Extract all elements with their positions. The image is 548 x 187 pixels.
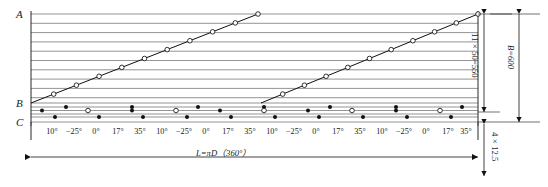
axis-label-a: A	[16, 8, 23, 20]
dimension-label-length: L=πD（360°）	[196, 146, 251, 158]
tick-marks	[31, 122, 478, 126]
figure-canvas: A B C 10° −25° 0° 17° 35° 10° −25° 0° 17…	[0, 0, 548, 187]
dimension-label-bottom-spacing: 4×12.5	[490, 132, 500, 161]
dimension-label-grid-stack: 11×50=550	[470, 33, 480, 78]
axis-label-c: C	[16, 116, 23, 128]
axis-label-b: B	[16, 97, 23, 109]
horizontal-gridlines	[31, 14, 478, 122]
helix-seam-line-2	[261, 12, 480, 103]
tick-label: 35°	[452, 127, 480, 136]
helix-seam-line-1	[31, 12, 260, 103]
dimension-label-total-height: B=600	[506, 45, 516, 69]
technical-drawing	[0, 0, 548, 187]
